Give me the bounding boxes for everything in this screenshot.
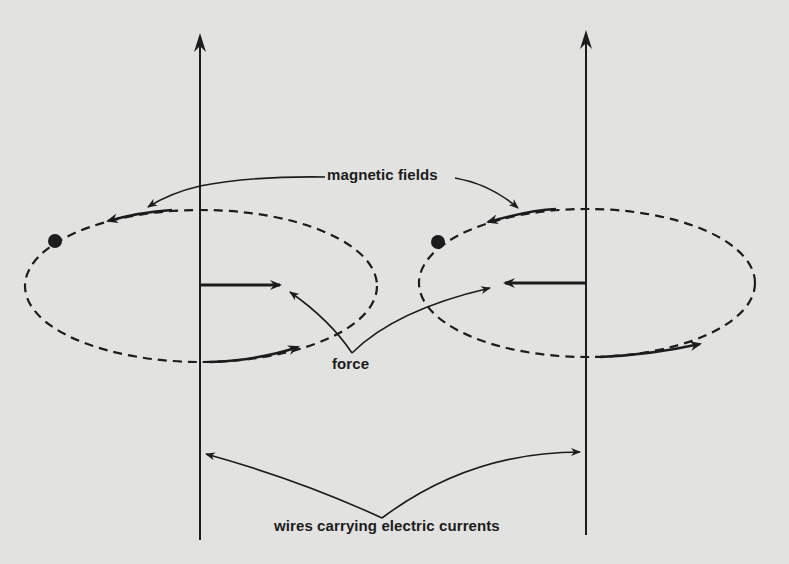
field-point-dot-icon <box>48 234 62 248</box>
force-leader-right <box>352 288 490 353</box>
magnetic-fields-leader-right <box>455 178 518 208</box>
field-direction-arrow-icon <box>210 347 298 362</box>
wires-leader-right <box>382 452 580 518</box>
diagram-page: magnetic fields force wires carrying ele… <box>0 0 789 564</box>
wires-label: wires carrying electric currents <box>274 517 500 534</box>
field-direction-arrow-icon <box>600 344 700 357</box>
magnetic-fields-leader-left <box>148 177 325 207</box>
force-leader-left <box>290 292 352 353</box>
field-point-dot-icon <box>431 235 445 249</box>
wires-leader-left <box>206 454 382 518</box>
force-label: force <box>332 355 369 372</box>
magnetic-fields-label: magnetic fields <box>327 166 438 183</box>
diagram-canvas <box>0 0 789 564</box>
